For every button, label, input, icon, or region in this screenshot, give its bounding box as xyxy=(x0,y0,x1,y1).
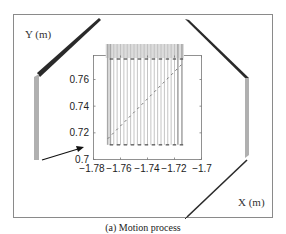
y-tick-074: 0.74 xyxy=(70,101,90,112)
x-tick-176: −1.76 xyxy=(106,163,132,174)
inset-plot xyxy=(94,44,202,160)
x-tick-178: −1.78 xyxy=(79,163,105,174)
left-upper-link xyxy=(37,18,101,77)
x-tick-labels: −1.78 −1.76 −1.74 −1.72 −1.7 xyxy=(79,163,212,174)
left-vertical-link xyxy=(34,74,39,160)
x-axis-label: X (m) xyxy=(238,196,265,209)
y-tick-labels: 0.76 0.74 0.72 0.7 xyxy=(70,74,90,165)
x-tick-17: −1.7 xyxy=(192,163,212,174)
right-vertical-link xyxy=(245,78,249,158)
y-tick-076: 0.76 xyxy=(70,74,90,85)
x-tick-174: −1.74 xyxy=(134,163,160,174)
motion-process-figure: 0.76 0.74 0.72 0.7 −1.78 −1.76 −1.74 −1.… xyxy=(0,0,286,234)
x-tick-172: −1.72 xyxy=(161,163,187,174)
y-axis-label: Y (m) xyxy=(25,28,52,41)
y-tick-072: 0.72 xyxy=(70,127,90,138)
figure-caption: (a) Motion process xyxy=(105,222,181,234)
